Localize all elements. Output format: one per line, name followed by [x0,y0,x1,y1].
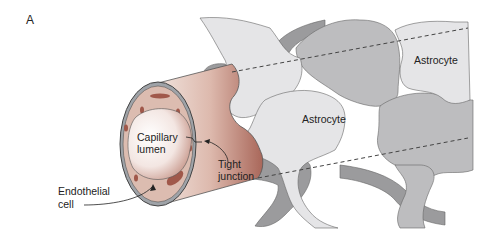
tight-junction-label-line1: Tight [218,158,241,170]
endothelial-cell-label-line1: Endothelial [58,185,110,197]
astrocyte-right-label: Astrocyte [414,54,458,66]
capillary-lumen-label-line2: lumen [137,143,166,155]
blood-brain-barrier-diagram: A Capillary lumen Tight junction Endothe… [0,0,483,235]
capillary-lumen-label-line1: Capillary [137,131,178,143]
tight-junction-label-line2: junction [218,170,254,182]
panel-label: A [26,14,34,26]
endothelial-cell-label-line2: cell [58,198,74,210]
astrocyte-center-label: Astrocyte [302,113,346,125]
